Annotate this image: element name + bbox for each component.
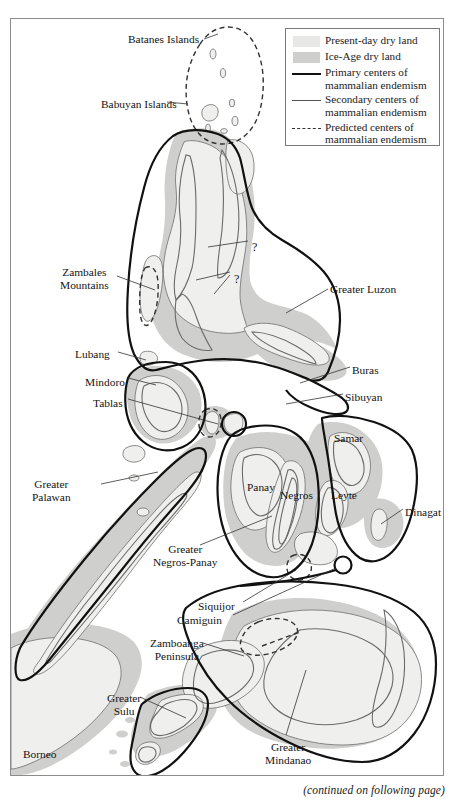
ice-age-swatch-icon [291,50,321,64]
map-label-camiguin: Camiguin [177,614,222,627]
map-label-greater-negros-panay: Greater Negros-Panay [153,543,218,569]
map-label-negros: Negros [280,489,313,502]
map-label-siquijor: Siquijor [198,600,235,613]
predicted-line-icon [291,121,321,135]
map-legend: Present-day dry land Ice-Age dry land Pr… [285,28,440,146]
map-label-leyte: Leyte [331,489,357,502]
legend-label-present-day: Present-day dry land [325,34,418,47]
legend-item-predicted-centers: Predicted centers of mammalian endemism [291,121,435,146]
map-label-mindoro: Mindoro [85,376,125,389]
primary-line-icon [291,66,321,80]
map-label-sibuyan: Sibuyan [345,391,382,404]
map-label-zambales-mountains: Zambales Mountains [60,266,109,292]
legend-item-ice-age: Ice-Age dry land [291,50,435,64]
map-label-borneo: Borneo [23,748,57,761]
present-day-swatch-icon [291,34,321,48]
map-label-greater-palawan: Greater Palawan [32,478,71,504]
legend-label-secondary-centers: Secondary centers of mammalian endemism [325,93,427,118]
legend-item-present-day: Present-day dry land [291,34,435,48]
map-label-zamboanga-peninsula: Zamboanga Peninsula [150,637,204,663]
map-annotation-question-mark-north: ? [252,240,257,255]
map-label-lubang: Lubang [75,348,110,361]
figure-caption: (continued on following page) [303,784,445,796]
map-label-greater-mindanao: Greater Mindanao [265,741,311,767]
secondary-line-icon [291,93,321,107]
map-label-dinagat: Dinagat [405,506,441,519]
legend-item-primary-centers: Primary centers of mammalian endemism [291,66,435,91]
map-label-batanes-islands: Batanes Islands [128,33,199,46]
map-label-tablas: Tablas [93,397,123,410]
legend-label-predicted-centers: Predicted centers of mammalian endemism [325,121,427,146]
map-label-samar: Samar [334,432,363,445]
legend-label-ice-age: Ice-Age dry land [325,50,401,63]
map-label-buras: Buras [352,364,379,377]
map-label-panay: Panay [247,481,275,494]
map-label-babuyan-islands: Babuyan Islands [101,98,177,111]
map-label-greater-luzon: Greater Luzon [330,283,396,296]
figure-map-philippines: Present-day dry land Ice-Age dry land Pr… [0,0,455,807]
map-annotation-question-mark-south: ? [234,272,239,287]
legend-label-primary-centers: Primary centers of mammalian endemism [325,66,427,91]
legend-item-secondary-centers: Secondary centers of mammalian endemism [291,93,435,118]
map-label-greater-sulu: Greater Sulu [107,692,141,718]
